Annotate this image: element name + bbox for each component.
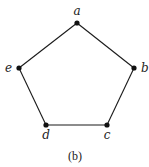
edge-b-c [107,68,134,125]
pentagon-graph: abcde (b) [0,0,149,167]
vertex-c [104,122,109,127]
vertex-label-a: a [73,4,80,18]
edge-e-a [19,23,77,68]
vertex-b [131,65,136,70]
vertex-d [43,122,48,127]
vertices [16,20,136,127]
vertex-a [74,20,79,25]
vertex-label-e: e [5,61,12,75]
edge-d-e [19,68,46,125]
edge-a-b [77,23,134,68]
figure-caption: (b) [68,149,82,163]
vertex-label-b: b [141,61,149,75]
edges [19,23,134,125]
vertex-label-c: c [104,128,111,142]
vertex-label-d: d [42,128,50,142]
vertex-e [16,65,21,70]
